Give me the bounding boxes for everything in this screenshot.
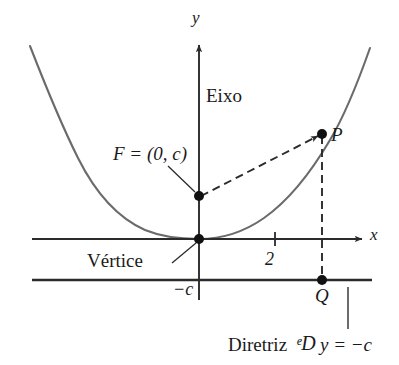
directrix-word-label: Diretriz <box>228 335 287 354</box>
point-q-marker <box>317 275 327 285</box>
focus-point <box>194 191 204 201</box>
focal-radius-dashed-line <box>201 136 318 196</box>
focus-label: F = (0, c) <box>113 144 187 163</box>
axis-word-label: Eixo <box>206 86 242 105</box>
point-p-marker <box>317 129 327 139</box>
point-q-label: Q <box>315 286 329 305</box>
parabola-curve <box>30 46 370 239</box>
y-axis-label: y <box>192 9 200 26</box>
vertex-point <box>194 234 204 244</box>
directrix-symbol-label: ᵉD <box>296 333 316 353</box>
figure-canvas <box>0 0 399 365</box>
focus-leader-line <box>168 166 195 192</box>
x-tick-2-label: 2 <box>265 250 274 268</box>
vertex-label: Vértice <box>87 251 143 270</box>
point-p-label: P <box>331 125 343 144</box>
x-axis-label: x <box>370 226 378 243</box>
vertex-leader-line <box>172 243 196 263</box>
neg-c-label: −c <box>173 280 193 298</box>
directrix-equation-label: y = −c <box>320 335 372 354</box>
parabola-figure: y x Eixo F = (0, c) Vértice 2 −c P Q Dir… <box>0 0 399 365</box>
